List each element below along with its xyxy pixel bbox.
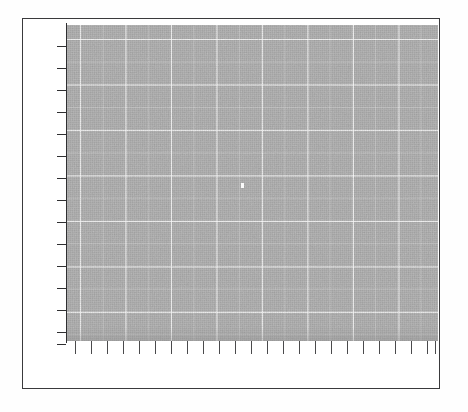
- panel-bright-speck: [241, 183, 244, 188]
- y-axis-tick: [57, 244, 66, 245]
- y-axis-tick: [57, 332, 66, 333]
- y-axis-tick: [57, 344, 66, 345]
- x-axis-tick: [379, 341, 380, 354]
- axes-group: [23, 19, 441, 390]
- x-axis-tick: [123, 341, 124, 354]
- y-axis-tick: [57, 112, 66, 113]
- x-axis-tick: [219, 341, 220, 354]
- x-axis-tick: [91, 341, 92, 354]
- x-axis-ticks: [67, 341, 438, 365]
- x-axis-tick: [395, 341, 396, 354]
- y-axis-tick: [57, 178, 66, 179]
- x-axis-tick: [235, 341, 236, 354]
- x-axis-tick: [139, 341, 140, 354]
- figure-frame: [22, 18, 440, 389]
- y-axis-tick: [57, 68, 66, 69]
- y-axis-tick: [57, 200, 66, 201]
- plot-panel[interactable]: [67, 25, 438, 341]
- x-axis-tick: [427, 341, 428, 354]
- x-axis-tick: [363, 341, 364, 354]
- y-axis-tick: [57, 288, 66, 289]
- x-axis-tick: [411, 341, 412, 354]
- x-axis-tick: [75, 341, 76, 354]
- figure-page: [0, 0, 468, 412]
- y-axis-tick: [57, 266, 66, 267]
- x-axis-tick: [107, 341, 108, 354]
- y-axis-tick: [57, 46, 66, 47]
- y-axis-ticks: [23, 19, 67, 349]
- y-axis-tick: [57, 156, 66, 157]
- y-axis-tick: [57, 134, 66, 135]
- x-axis-tick: [155, 341, 156, 354]
- x-axis-tick: [171, 341, 172, 354]
- x-axis-tick: [267, 341, 268, 354]
- y-axis-tick: [57, 222, 66, 223]
- x-axis-tick: [251, 341, 252, 354]
- y-axis-tick: [57, 90, 66, 91]
- x-axis-tick: [283, 341, 284, 354]
- x-axis-tick: [315, 341, 316, 354]
- panel-bottom-shading: [67, 327, 438, 341]
- x-axis-tick: [299, 341, 300, 354]
- x-axis-tick: [347, 341, 348, 354]
- panel-halftone-texture: [67, 25, 438, 341]
- x-axis-tick: [331, 341, 332, 354]
- x-axis-tick: [435, 341, 436, 354]
- y-axis-tick: [57, 310, 66, 311]
- x-axis-tick: [203, 341, 204, 354]
- x-axis-tick: [187, 341, 188, 354]
